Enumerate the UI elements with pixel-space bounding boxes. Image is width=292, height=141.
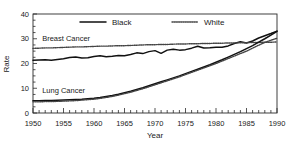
x-tick-label: 1960 (86, 119, 103, 128)
series-line-breast-cancer-white (33, 42, 277, 48)
x-tick-label: 1985 (238, 119, 255, 128)
y-tick-label: 10 (21, 84, 29, 93)
x-tick-label: 1965 (116, 119, 133, 128)
chart-legend: BlackWhite (80, 18, 225, 27)
y-tick-labels: 010203040 (21, 10, 29, 118)
x-tick-label: 1950 (25, 119, 42, 128)
chart-figure: 010203040 195019551960196519701975198019… (0, 0, 292, 141)
x-tick-label: 1990 (269, 119, 286, 128)
y-tick-label: 40 (21, 10, 29, 19)
x-tick-label: 1980 (208, 119, 225, 128)
x-tick-label: 1975 (177, 119, 194, 128)
x-axis-label: Year (147, 131, 164, 140)
rate-by-year-line-chart: 010203040 195019551960196519701975198019… (0, 0, 292, 141)
y-tick-label: 20 (21, 59, 29, 68)
annotation-lung-cancer: Lung Cancer (42, 86, 85, 95)
x-tick-label: 1955 (55, 119, 72, 128)
x-tick-label: 1970 (147, 119, 164, 128)
annotation-breast-cancer: Breast Cancer (42, 34, 90, 43)
y-tick-label: 30 (21, 34, 29, 43)
plot-frame (33, 14, 277, 113)
legend-label-white: White (204, 18, 225, 27)
y-axis-label: Rate (2, 55, 11, 72)
x-tick-labels: 195019551960196519701975198019851990 (25, 119, 286, 128)
series-annotations: Breast CancerLung Cancer (42, 34, 90, 95)
axes-group (33, 14, 277, 113)
y-tick-label: 0 (25, 109, 29, 118)
legend-label-black: Black (112, 18, 133, 27)
tick-marks (33, 14, 277, 113)
